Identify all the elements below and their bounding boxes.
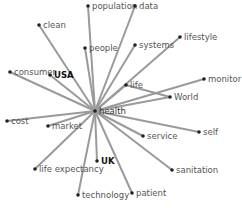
node-lifestyle[interactable]: lifestyle	[178, 32, 217, 42]
node-dot-icon	[93, 109, 97, 113]
node-label: clean	[43, 20, 66, 30]
node-dot-icon	[48, 73, 52, 77]
node-label: technology	[82, 190, 129, 200]
node-dot-icon	[5, 119, 9, 123]
node-sanitation[interactable]: sanitation	[170, 165, 218, 175]
node-dot-icon	[83, 46, 87, 50]
node-monitor[interactable]: monitor	[202, 74, 242, 84]
node-world[interactable]: World	[168, 92, 198, 102]
node-label: life	[130, 80, 143, 90]
node-label: World	[174, 92, 198, 102]
node-label: market	[52, 121, 83, 131]
node-dot-icon	[178, 35, 182, 39]
node-technology[interactable]: technology	[76, 190, 129, 200]
node-label: health	[99, 106, 126, 116]
node-label: life expectancy	[39, 164, 104, 174]
node-label: people	[89, 43, 118, 53]
node-label: sanitation	[176, 165, 218, 175]
node-label: service	[147, 131, 177, 141]
node-dot-icon	[37, 23, 41, 27]
node-dot-icon	[130, 191, 134, 195]
edge-health-uk	[95, 111, 97, 161]
node-label: USA	[54, 70, 74, 80]
node-dot-icon	[33, 167, 37, 171]
node-label: patient	[136, 188, 167, 198]
node-dot-icon	[95, 159, 99, 163]
node-self[interactable]: self	[197, 127, 219, 137]
node-label: self	[203, 127, 219, 137]
edge-health-patient	[95, 111, 132, 193]
node-people[interactable]: people	[83, 43, 118, 53]
node-systems[interactable]: systems	[133, 40, 175, 50]
node-market[interactable]: market	[46, 121, 83, 131]
node-dot-icon	[86, 4, 90, 8]
node-health[interactable]: health	[93, 106, 126, 116]
node-dot-icon	[124, 83, 128, 87]
node-dot-icon	[133, 43, 137, 47]
node-label: cost	[11, 116, 29, 126]
node-dot-icon	[202, 77, 206, 81]
node-label: systems	[139, 40, 175, 50]
node-dot-icon	[168, 95, 172, 99]
node-label: lifestyle	[184, 32, 217, 42]
node-dot-icon	[76, 193, 80, 197]
node-label: population	[92, 1, 137, 11]
node-label: data	[139, 1, 158, 11]
node-life-expectancy[interactable]: life expectancy	[33, 164, 104, 174]
network-graph: populationdatacleanpeoplesystemslifestyl…	[0, 0, 242, 208]
node-label: monitor	[208, 74, 242, 84]
node-dot-icon	[46, 124, 50, 128]
node-service[interactable]: service	[141, 131, 177, 141]
node-dot-icon	[170, 168, 174, 172]
node-dot-icon	[8, 70, 12, 74]
node-dot-icon	[197, 130, 201, 134]
node-life[interactable]: life	[124, 80, 143, 90]
node-dot-icon	[141, 134, 145, 138]
node-patient[interactable]: patient	[130, 188, 167, 198]
graph-nodes: populationdatacleanpeoplesystemslifestyl…	[5, 1, 242, 200]
node-dot-icon	[133, 4, 137, 8]
node-population[interactable]: population	[86, 1, 137, 11]
